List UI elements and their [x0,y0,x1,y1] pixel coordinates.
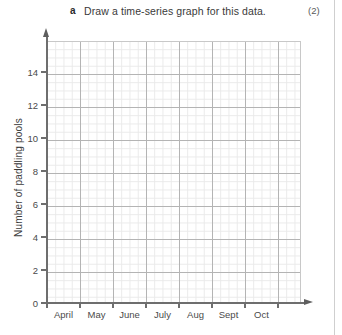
y-tick-label: 4 [12,232,38,243]
x-tick-label-may: May [88,309,106,320]
time-series-graph-grid[interactable]: Number of paddling pools 02468101214 Apr… [0,0,342,335]
x-tick-label-april: April [54,309,73,320]
x-axis-arrow-icon [304,299,313,305]
y-tick-label: 8 [12,166,38,177]
y-tick-mark [41,137,47,138]
x-tick-label-sept: Sept [219,309,239,320]
x-tick-mark [178,302,179,308]
x-tick-mark [145,302,146,308]
y-tick-mark [41,170,47,171]
y-tick-label: 14 [12,67,38,78]
x-tick-label-oct: Oct [254,309,269,320]
x-tick-mark [244,302,245,308]
x-tick-mark [46,302,47,308]
x-tick-mark [277,302,278,308]
y-tick-label: 12 [12,100,38,111]
y-axis-arrow-icon [43,28,49,37]
y-tick-mark [41,104,47,105]
worksheet-page: a Draw a time-series graph for this data… [0,0,342,335]
y-tick-label: 2 [12,265,38,276]
y-tick-label: 0 [12,298,38,309]
x-axis-line [46,302,307,304]
y-tick-label: 10 [12,133,38,144]
y-tick-mark [41,71,47,72]
x-tick-mark [211,302,212,308]
x-tick-mark [79,302,80,308]
x-tick-label-june: June [119,309,140,320]
x-tick-label-july: July [154,309,171,320]
plot-area-grid[interactable] [47,41,301,303]
y-tick-mark [41,269,47,270]
y-tick-mark [41,203,47,204]
y-tick-mark [41,236,47,237]
x-tick-mark [112,302,113,308]
x-tick-label-aug: Aug [187,309,204,320]
y-tick-label: 6 [12,199,38,210]
